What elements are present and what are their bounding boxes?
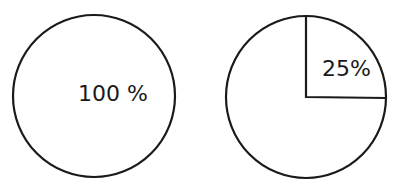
- full-pie-label: 100 %: [78, 81, 148, 106]
- quarter-pie: 25%: [226, 16, 386, 178]
- quarter-pie-label: 25%: [322, 56, 371, 81]
- pie-diagram: 100 % 25%: [0, 0, 397, 188]
- full-pie: 100 %: [13, 15, 175, 177]
